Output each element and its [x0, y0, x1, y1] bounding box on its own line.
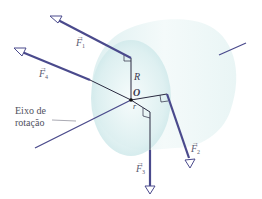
radius-label: R: [134, 72, 140, 82]
force-f2-label: →F2: [191, 144, 200, 157]
force-f1-label: →F1: [76, 38, 85, 51]
force-f3-label: →F3: [136, 164, 145, 177]
arrowhead-f4: [14, 48, 26, 56]
vector-arrow-icon: →: [192, 138, 199, 148]
axis-label-line2: rotação: [15, 117, 46, 129]
arrowhead-f3: [145, 186, 155, 194]
arrowhead-f2: [185, 159, 195, 168]
axis-label-leader: [52, 120, 76, 121]
torque-diagram: [0, 0, 262, 199]
force-f4-arrow: [22, 52, 90, 80]
axis-label-line1: Eixo de: [15, 105, 46, 117]
lever-arm-label: r: [133, 102, 136, 112]
origin-label: O: [133, 88, 140, 98]
rotation-axis-label: Eixo de rotação: [15, 105, 46, 129]
vector-arrow-icon: →: [40, 63, 47, 73]
force-f4-label: →F4: [39, 69, 48, 82]
vector-arrow-icon: →: [137, 158, 144, 168]
vector-arrow-icon: →: [77, 32, 84, 42]
